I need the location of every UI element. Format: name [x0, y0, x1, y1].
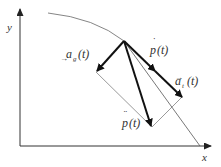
svg-text:t: t — [182, 82, 185, 90]
svg-text:(t): (t) — [78, 47, 89, 61]
svg-text:(t): (t) — [157, 43, 168, 57]
svg-text:p: p — [149, 43, 156, 57]
svg-text:p: p — [121, 116, 128, 130]
y-axis-label: y — [6, 21, 12, 33]
parallelogram-edge-2 — [152, 97, 182, 127]
svg-text:a: a — [66, 47, 72, 61]
p-ddot-label: ¨ p (t) — [121, 109, 140, 130]
a-t-label: → a t (t) — [175, 73, 198, 90]
trajectory-curve — [48, 13, 124, 41]
p-dot-label: ˙ p (t) — [149, 36, 168, 57]
x-axis-label: x — [201, 151, 207, 163]
a-g-vector-arrow — [97, 41, 124, 71]
svg-text:(t): (t) — [129, 116, 140, 130]
svg-text:g: g — [73, 55, 77, 63]
svg-text:(t): (t) — [187, 74, 198, 88]
a-g-label: → a g (t) — [60, 47, 89, 63]
svg-text:a: a — [175, 74, 181, 88]
kinematics-diagram: y x → a g (t) ˙ p (t) → a t (t) ¨ p (t) — [0, 0, 221, 167]
